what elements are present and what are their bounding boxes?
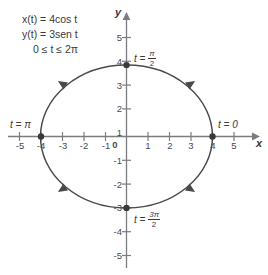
direction-arrow-lower-right — [185, 183, 197, 195]
fraction-pi-over-2: π 2 — [148, 49, 155, 68]
y-tick-label--2: -2 — [101, 179, 122, 190]
x-tick-label--3: -3 — [54, 140, 72, 151]
y-tick-label-4: 4 — [107, 56, 122, 67]
direction-arrow-lower-left — [56, 183, 68, 195]
point-marker-t-half-pi — [123, 62, 129, 68]
fraction-three-pi-over-2: 3π 2 — [148, 210, 160, 229]
equation-y-of-t: y(t) = 3sen t — [22, 27, 78, 42]
y-tick-label--5: -5 — [101, 250, 122, 261]
annotation-t-zero-text: t = 0 — [218, 119, 238, 130]
annotation-t-equals-zero: t = 0 — [218, 119, 238, 130]
y-axis-label: y — [115, 6, 121, 18]
y-tick-label-5: 5 — [107, 32, 122, 43]
equation-x-of-t: x(t) = 4cos t — [22, 12, 78, 27]
x-tick-label-2: 2 — [161, 140, 179, 151]
direction-arrow-upper-right — [185, 78, 197, 90]
x-tick-label-5: 5 — [225, 140, 243, 151]
y-tick-label--1: -1 — [101, 155, 122, 166]
x-tick-label-3: 3 — [182, 140, 200, 151]
fraction-numerator: 3π — [148, 210, 160, 220]
annotation-t-half-pi-text: t = — [134, 53, 145, 64]
x-axis-label: x — [256, 137, 262, 149]
y-tick-label--4: -4 — [101, 226, 122, 237]
x-tick-label-1: 1 — [139, 140, 157, 151]
parametric-ellipse-figure: x(t) = 4cos t y(t) = 3sen t 0 ≤ t ≤ 2π x… — [0, 0, 268, 275]
x-tick-label--4: -4 — [32, 140, 50, 151]
x-tick-label--5: -5 — [11, 140, 29, 151]
annotation-t-three-half-pi-text: t = — [134, 214, 145, 225]
direction-arrow-upper-left — [56, 78, 68, 90]
origin-label: 0 — [108, 139, 122, 150]
annotation-t-equals-pi: t = π — [10, 119, 31, 130]
point-marker-t-zero — [209, 133, 215, 139]
y-tick-label-3: 3 — [107, 80, 122, 91]
y-tick-label-1: 1 — [107, 127, 122, 138]
equation-domain: 0 ≤ t ≤ 2π — [22, 42, 78, 57]
fraction-denominator: 2 — [148, 220, 160, 229]
y-axis-arrowhead — [123, 12, 131, 20]
point-marker-t-three-half-pi — [123, 205, 129, 211]
fraction-denominator: 2 — [148, 59, 155, 68]
y-tick-label--3: -3 — [101, 202, 122, 213]
annotation-t-equals-three-half-pi: t = 3π 2 — [134, 211, 160, 230]
parametric-equations-block: x(t) = 4cos t y(t) = 3sen t 0 ≤ t ≤ 2π — [22, 12, 78, 57]
fraction-numerator: π — [148, 49, 155, 59]
point-marker-t-pi — [38, 133, 44, 139]
x-tick-label--2: -2 — [75, 140, 93, 151]
annotation-t-equals-half-pi: t = π 2 — [134, 50, 156, 69]
y-tick-label-2: 2 — [107, 103, 122, 114]
x-tick-label-4: 4 — [204, 140, 222, 151]
annotation-t-pi-text: t = π — [10, 119, 31, 130]
